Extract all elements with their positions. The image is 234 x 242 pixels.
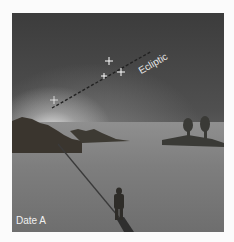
ecliptic-line	[52, 51, 152, 108]
date-label: Date A	[16, 215, 46, 226]
person-shadow	[116, 217, 134, 232]
person-icon	[114, 188, 124, 221]
left-hill	[12, 117, 82, 153]
illustration-frame: Ecliptic	[12, 13, 224, 232]
shadow-line	[58, 144, 122, 221]
scene-graphics	[12, 13, 224, 232]
star-icons	[50, 57, 125, 104]
tree-icons	[162, 116, 224, 147]
